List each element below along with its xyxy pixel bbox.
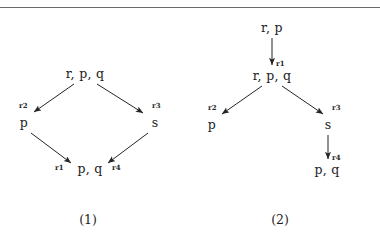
- edge-left-to-bottom: [31, 133, 71, 163]
- edge-top-to-right: [97, 84, 143, 113]
- edge-mid-to-right: [282, 86, 323, 114]
- edge-right-to-bottom: [108, 133, 148, 163]
- diagram-2-caption: (2): [271, 212, 289, 227]
- diagram-2-panel: r, p r1 r, p, q r2 r3 p s r4 p, q (2): [190, 0, 380, 252]
- edge-label-r2: r2: [208, 103, 217, 112]
- edge-label-r1: r1: [55, 163, 64, 172]
- node-p-left: p: [20, 115, 28, 130]
- edge-top-to-left: [34, 84, 74, 112]
- edge-label-r3: r3: [332, 103, 341, 112]
- edge-label-r2: r2: [19, 101, 28, 110]
- diagram-2-canvas: r, p r1 r, p, q r2 r3 p s r4 p, q (2): [190, 0, 380, 252]
- diagram-1-caption: (1): [79, 212, 97, 227]
- node-r-p-root: r, p: [261, 20, 283, 35]
- node-p-q-leaf: p, q: [314, 162, 339, 177]
- node-s-right: s: [325, 117, 332, 132]
- node-s-right: s: [152, 115, 159, 130]
- diagram-1-panel: r, p, q r2 r3 p s r1 r4 p, q (1): [0, 0, 190, 252]
- node-r-p-q-top: r, p, q: [66, 66, 105, 81]
- edge-label-r1: r1: [276, 59, 285, 68]
- edge-label-r4: r4: [332, 153, 341, 162]
- figure-root: r, p, q r2 r3 p s r1 r4 p, q (1): [0, 0, 380, 252]
- edge-mid-to-left: [222, 86, 262, 114]
- node-p-q-bottom: p, q: [77, 161, 102, 176]
- edge-label-r4: r4: [112, 163, 121, 172]
- edge-label-r3: r3: [152, 101, 161, 110]
- diagram-1-canvas: r, p, q r2 r3 p s r1 r4 p, q (1): [0, 0, 190, 252]
- node-p-left: p: [208, 117, 216, 132]
- node-r-p-q-mid: r, p, q: [253, 68, 292, 83]
